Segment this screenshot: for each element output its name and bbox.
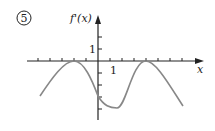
problem-number: 5 [21,12,28,25]
x-tick-label: 1 [110,64,117,77]
y-arrow-icon [95,15,101,24]
chart: 5 1 1 f'(x) x [0,0,215,131]
y-tick-label: 1 [89,43,96,56]
y-axis-label: f'(x) [69,12,92,25]
chart-svg: 5 1 1 f'(x) x [0,0,215,131]
x-axis-label: x [197,63,204,76]
